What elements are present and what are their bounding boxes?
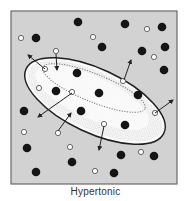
water-molecule (53, 48, 58, 53)
solute-particle (161, 43, 170, 52)
solute-particle (121, 20, 130, 29)
solute-particle (95, 89, 104, 98)
water-molecule (21, 129, 26, 134)
water-molecule (36, 85, 41, 90)
solute-particle (20, 107, 29, 116)
solute-particle (77, 107, 86, 116)
water-molecule (18, 35, 23, 40)
diagram-caption: Hypertonic (0, 186, 191, 197)
water-molecule (120, 78, 125, 83)
water-molecule (55, 130, 60, 135)
solute-particle (52, 87, 61, 96)
water-molecule (90, 34, 95, 39)
solute-particle (150, 152, 159, 161)
solute-particle (68, 158, 77, 167)
solute-particle (73, 69, 82, 78)
solute-particle (158, 23, 167, 32)
water-molecule (138, 149, 143, 154)
solute-particle (23, 144, 32, 153)
solute-particle (160, 66, 169, 75)
water-molecule (67, 144, 72, 149)
water-molecule (151, 54, 156, 59)
solute-particle (110, 169, 119, 178)
solute-particle (98, 43, 107, 52)
water-molecule (92, 168, 97, 173)
solute-particle (138, 47, 147, 56)
solute-particle (32, 168, 41, 177)
solute-particle (74, 18, 83, 27)
solute-particle (117, 151, 126, 160)
solute-particle (134, 91, 143, 100)
water-molecule (144, 26, 149, 31)
hypertonic-cell-diagram (0, 0, 191, 201)
solute-particle (121, 121, 130, 130)
water-molecule (101, 121, 106, 126)
solute-particle (32, 34, 41, 43)
